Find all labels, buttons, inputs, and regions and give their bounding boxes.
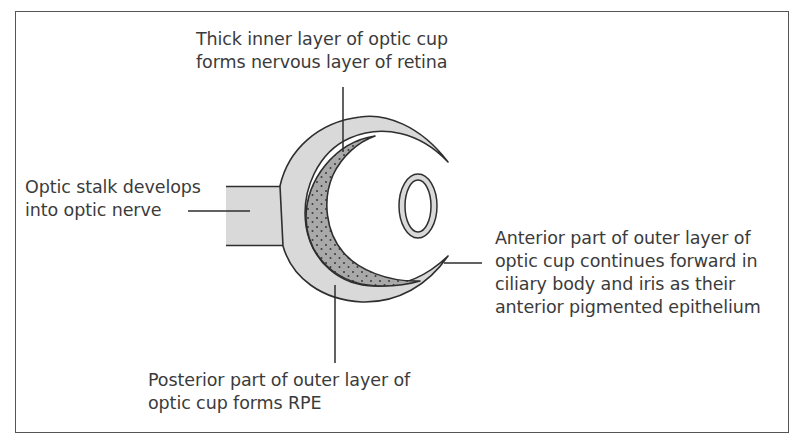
lens-vesicle [399,174,437,238]
label-inner-layer: Thick inner layer of optic cup forms ner… [196,28,448,74]
label-posterior-outer: Posterior part of outer layer of optic c… [148,369,410,415]
label-anterior-outer: Anterior part of outer layer of optic cu… [495,227,761,319]
label-optic-stalk: Optic stalk develops into optic nerve [25,176,201,222]
